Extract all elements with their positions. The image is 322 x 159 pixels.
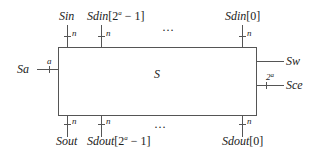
width-label: n	[247, 28, 252, 38]
output-sw: Sw	[257, 54, 300, 68]
block-s	[59, 48, 257, 116]
width-label: a	[47, 56, 52, 66]
port-label: Sdin[0]	[225, 9, 260, 23]
width-label: n	[72, 28, 77, 38]
width-label: n	[106, 28, 111, 38]
port-label: Sin	[59, 9, 74, 23]
input-sin: n Sin	[59, 9, 77, 47]
port-label: Sw	[286, 54, 300, 68]
port-label: Sout	[56, 134, 78, 148]
width-label: n	[72, 116, 77, 126]
input-sdin-high: n Sdin[2a − 1]	[87, 9, 145, 47]
block-diagram: S n Sin n Sdin[2a − 1] … n Sdin[0] a Sa …	[0, 0, 322, 159]
output-sdout-0: n Sdout[0]	[222, 116, 263, 148]
output-sout: n Sout	[56, 116, 78, 148]
input-sce: 2a Sce	[257, 71, 303, 92]
port-label: Sdout[0]	[222, 134, 263, 148]
width-label: n	[106, 116, 111, 126]
port-label: Sdout[2a − 1]	[87, 134, 151, 148]
width-label: 2a	[266, 71, 275, 82]
output-sdout-high: n Sdout[2a − 1]	[87, 116, 151, 148]
port-label: Sce	[286, 78, 303, 92]
width-label: n	[247, 116, 252, 126]
input-sdin-0: n Sdin[0]	[225, 9, 260, 47]
bottom-ellipsis: …	[154, 117, 166, 131]
input-sa: a Sa	[17, 56, 58, 76]
port-label: Sdin[2a − 1]	[87, 9, 145, 23]
top-ellipsis: …	[162, 20, 174, 34]
block-label: S	[154, 67, 160, 81]
port-label: Sa	[17, 62, 29, 76]
